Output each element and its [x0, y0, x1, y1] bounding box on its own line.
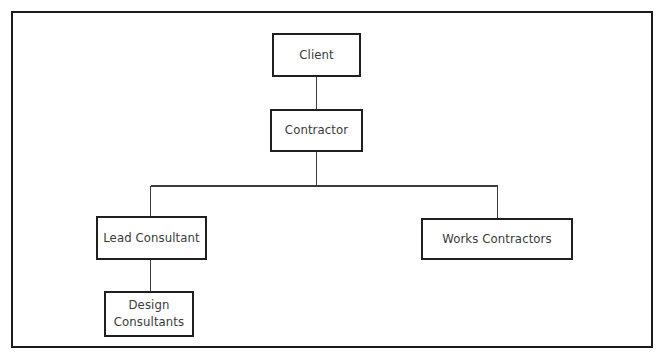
node-works-contractors: Works Contractors	[421, 218, 573, 260]
node-design-consultants-label: Design Consultants	[114, 297, 184, 331]
node-design-consultants: Design Consultants	[104, 291, 194, 337]
node-client: Client	[272, 33, 361, 77]
node-works-contractors-label: Works Contractors	[442, 231, 551, 247]
org-chart-diagram: Client Contractor Lead Consultant Works …	[0, 0, 664, 361]
node-contractor: Contractor	[270, 109, 363, 152]
node-lead-consultant-label: Lead Consultant	[103, 230, 200, 246]
node-lead-consultant: Lead Consultant	[96, 216, 207, 260]
node-contractor-label: Contractor	[285, 122, 348, 138]
node-client-label: Client	[299, 47, 333, 63]
